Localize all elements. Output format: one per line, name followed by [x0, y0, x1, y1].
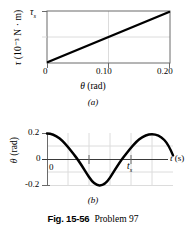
t-marker-subscript: s [130, 166, 133, 173]
figure-15-56: τ (10⁻³ N · m) τs [0, 0, 186, 226]
t-s-marker-label: ts [127, 161, 132, 173]
figure-number: Fig. 15-56 [48, 213, 90, 224]
panel-a-x-unit: (rad) [87, 81, 105, 91]
panel-a-caption: (a) [0, 97, 186, 107]
panel-b-t-unit: (s) [175, 153, 185, 163]
panel-b-t-axis-label: t (s) [170, 153, 184, 163]
panel-b-ytick-bottom: -0.2 [25, 179, 39, 189]
panel-a-x-symbol: θ [80, 81, 85, 91]
figure-caption: Fig. 15-56Problem 97 [0, 213, 186, 224]
panel-a-xtick-0: 0 [43, 66, 48, 76]
panel-b-t-symbol: t [170, 153, 173, 163]
panel-a-xtick-1: 0.10 [96, 66, 112, 76]
panel-a-plot [0, 0, 186, 75]
panel-b-caption: (b) [0, 195, 186, 205]
panel-b-ytick-top: 0.2 [28, 127, 39, 137]
panel-a-x-axis-label: θ (rad) [0, 81, 186, 91]
panel-a-xtick-2: 0.20 [157, 66, 173, 76]
panel-a: τ (10⁻³ N · m) τs [0, 0, 186, 113]
panel-b-ytick-mid: 0 [36, 153, 41, 163]
figure-description: Problem 97 [94, 214, 138, 224]
panel-b: θ (rad) [0, 110, 186, 206]
panel-b-origin-label: 0 [49, 162, 54, 172]
